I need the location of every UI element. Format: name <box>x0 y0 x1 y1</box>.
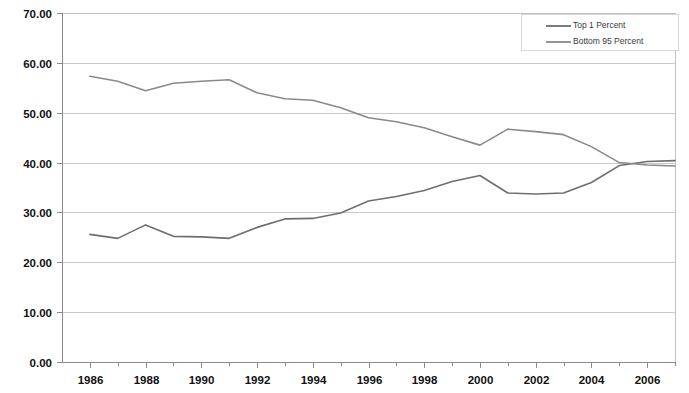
x-tick-label: 2000 <box>468 374 494 386</box>
x-tick-label: 1990 <box>189 374 215 386</box>
series-line-1 <box>90 161 675 239</box>
y-tick-label: 60.00 <box>23 58 52 70</box>
y-tick-label: 30.00 <box>23 207 52 219</box>
y-tick-label: 20.00 <box>23 257 52 269</box>
y-tick-label: 70.00 <box>23 8 52 20</box>
x-tick-label: 1998 <box>412 374 438 386</box>
y-tick-label: 40.00 <box>23 158 52 170</box>
line-chart: 0.0010.0020.0030.0040.0050.0060.0070.00 … <box>0 0 689 393</box>
x-tick-label: 1986 <box>78 374 104 386</box>
y-tick-label: 50.00 <box>23 108 52 120</box>
y-tick-label: 0.00 <box>30 357 52 369</box>
gridlines <box>62 14 675 363</box>
chart-container: 0.0010.0020.0030.0040.0050.0060.0070.00 … <box>0 0 689 393</box>
x-tick-label: 1992 <box>245 374 271 386</box>
plot-area-border <box>63 14 676 363</box>
x-axis: 1986198819901992199419961998200020022004… <box>62 362 676 386</box>
chart-legend: Top 1 PercentBottom 95 Percent <box>522 15 679 51</box>
y-tick-label: 10.00 <box>23 307 52 319</box>
data-series <box>90 76 675 238</box>
y-axis: 0.0010.0020.0030.0040.0050.0060.0070.00 <box>23 8 62 369</box>
x-tick-label: 1994 <box>301 374 327 386</box>
legend-label-1: Top 1 Percent <box>573 20 626 30</box>
x-tick-label: 2004 <box>579 374 605 386</box>
legend-label-2: Bottom 95 Percent <box>573 36 644 46</box>
x-tick-label: 1988 <box>134 374 160 386</box>
x-tick-label: 2002 <box>524 374 550 386</box>
x-tick-label: 1996 <box>357 374 383 386</box>
x-tick-label: 2006 <box>635 374 661 386</box>
series-line-2 <box>90 76 675 166</box>
plot-frame <box>63 14 676 363</box>
